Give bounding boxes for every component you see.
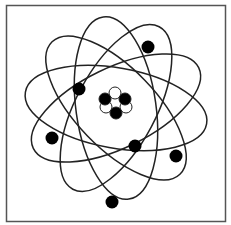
electron xyxy=(73,83,86,96)
proton-particle xyxy=(119,93,131,105)
electron xyxy=(129,140,142,153)
nucleus xyxy=(99,87,132,119)
electron xyxy=(46,132,59,145)
electron xyxy=(170,150,183,163)
atom-diagram xyxy=(0,0,231,225)
electron xyxy=(142,41,155,54)
proton-particle xyxy=(99,93,111,105)
proton-particle xyxy=(110,107,122,119)
electron xyxy=(106,196,119,209)
